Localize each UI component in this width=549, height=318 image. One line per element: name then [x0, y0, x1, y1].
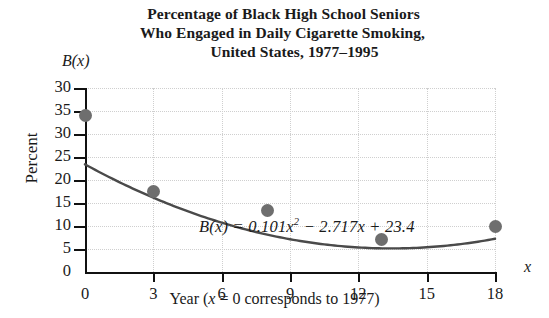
x-tick-mark	[495, 272, 497, 282]
x-tick-label: 6	[202, 284, 242, 304]
equation-annotation: B(x) = 0.101x2 − 2.717x + 23.4	[199, 216, 415, 237]
equation-plus: +	[369, 217, 380, 236]
x-tick-label: 9	[270, 284, 310, 304]
x-tick-mark	[153, 272, 155, 282]
y-tick-label: 15	[31, 194, 71, 210]
x-tick-mark	[290, 272, 292, 282]
y-tick-label: 5	[31, 240, 71, 256]
equation-minus: −	[304, 217, 315, 236]
gridline-vertical	[495, 88, 496, 272]
data-point	[79, 109, 92, 122]
y-tick-label: 0	[31, 263, 71, 279]
y-tick-mark	[74, 203, 85, 205]
y-tick-mark	[74, 249, 85, 251]
y-tick-mark	[74, 134, 85, 136]
chart-title-line-1: Percentage of Black High School Seniors	[0, 4, 549, 23]
equation-equals: =	[233, 217, 244, 236]
y-tick-label: 30	[31, 79, 71, 95]
data-point	[147, 185, 160, 198]
x-tick-mark	[427, 272, 429, 282]
y-tick-label: 20	[31, 171, 71, 187]
x-tick-mark	[358, 272, 360, 282]
equation-lhs: B(x)	[199, 217, 228, 236]
equation-exponent: 2	[294, 216, 299, 227]
plot-area: 0510152025303530 0369121518 B(x) = 0.101…	[85, 88, 495, 272]
x-axis-variable-label: x	[524, 258, 531, 276]
x-tick-label: 18	[475, 284, 515, 304]
equation-coef-linear: 2.717	[319, 217, 357, 236]
y-tick-mark	[74, 157, 85, 159]
fit-curve	[85, 88, 495, 272]
x-tick-label: 15	[407, 284, 447, 304]
chart-title-line-2: Who Engaged in Daily Cigarette Smoking,	[0, 23, 549, 42]
x-tick-label: 12	[338, 284, 378, 304]
y-tick-mark	[74, 88, 85, 90]
x-tick-mark	[222, 272, 224, 282]
y-tick-mark	[74, 226, 85, 228]
equation-x-squared-base: x	[286, 217, 294, 236]
data-point	[489, 220, 502, 233]
x-tick-label: 3	[133, 284, 173, 304]
equation-coef-quadratic: 0.101	[248, 217, 286, 236]
equation-x-term: x	[357, 217, 365, 236]
equation-constant: 23.4	[385, 217, 415, 236]
y-tick-mark	[74, 180, 85, 182]
chart-figure: Percentage of Black High School Seniors …	[0, 0, 549, 318]
y-tick-label: 25	[31, 148, 71, 164]
y-tick-label: 35	[31, 102, 71, 118]
y-axis-function-label: B(x)	[62, 52, 90, 70]
x-tick-label: 0	[65, 284, 105, 304]
y-tick-label: 30	[31, 125, 71, 141]
y-tick-label: 10	[31, 217, 71, 233]
